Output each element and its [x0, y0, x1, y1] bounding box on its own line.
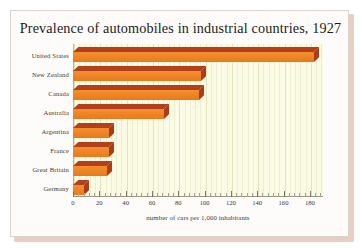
- x-tick-minor: [120, 193, 121, 197]
- x-tick-minor: [262, 193, 263, 197]
- gridline: [211, 44, 212, 196]
- x-tick-minor: [210, 193, 211, 197]
- gridline: [290, 44, 291, 196]
- x-tick-label-180: 180: [305, 199, 315, 206]
- x-tick-major: [231, 191, 232, 197]
- x-tick-minor: [189, 193, 190, 197]
- gridline: [148, 44, 149, 196]
- gridline: [311, 44, 312, 196]
- gridline: [206, 44, 207, 196]
- x-axis-title: number of cars per 1,000 inhabitants: [73, 214, 323, 221]
- x-tick-major: [284, 191, 285, 197]
- category-label-canada: Canada: [11, 89, 69, 96]
- gridline: [321, 44, 322, 196]
- chart-card: Prevalence of automobiles in industrial …: [10, 10, 349, 237]
- gridline: [295, 44, 296, 196]
- x-tick-minor: [115, 193, 116, 197]
- x-tick-minor: [320, 193, 321, 197]
- x-tick-minor: [278, 193, 279, 197]
- x-tick-minor: [294, 193, 295, 197]
- x-tick-major: [178, 191, 179, 197]
- gridline: [258, 44, 259, 196]
- gridline: [237, 44, 238, 196]
- gridline: [263, 44, 264, 196]
- category-label-united-states: United States: [11, 51, 69, 58]
- x-tick-minor: [252, 193, 253, 197]
- x-tick-minor: [247, 193, 248, 197]
- x-tick-minor: [241, 193, 242, 197]
- x-tick-label-20: 20: [96, 199, 103, 206]
- x-tick-minor: [136, 193, 137, 197]
- gridline: [242, 44, 243, 196]
- gridline: [132, 44, 133, 196]
- gridline: [79, 44, 80, 196]
- x-tick-minor: [105, 193, 106, 197]
- x-tick-major: [73, 191, 74, 197]
- gridline: [248, 44, 249, 196]
- x-tick-label-80: 80: [175, 199, 182, 206]
- x-tick-label-160: 160: [279, 199, 289, 206]
- x-tick-minor: [194, 193, 195, 197]
- category-axis-labels: United StatesNew ZealandCanadaAustraliaA…: [11, 44, 69, 196]
- x-tick-label-120: 120: [226, 199, 236, 206]
- x-tick-minor: [141, 193, 142, 197]
- gridline: [163, 44, 164, 196]
- gridline: [274, 44, 275, 196]
- gridline: [221, 44, 222, 196]
- x-axis-tick-labels: 020406080100120140160180: [73, 199, 323, 211]
- x-axis-ticks: [73, 191, 323, 197]
- x-tick-minor: [84, 193, 85, 197]
- gridline: [316, 44, 317, 196]
- gridline: [185, 44, 186, 196]
- x-tick-minor: [299, 193, 300, 197]
- gridline: [232, 44, 233, 196]
- category-label-new-zealand: New Zealand: [11, 70, 69, 77]
- x-tick-minor: [168, 193, 169, 197]
- x-tick-minor: [289, 193, 290, 197]
- x-tick-major: [99, 191, 100, 197]
- x-tick-minor: [305, 193, 306, 197]
- x-tick-minor: [94, 193, 95, 197]
- x-tick-label-40: 40: [122, 199, 129, 206]
- x-tick-label-100: 100: [200, 199, 210, 206]
- gridline: [85, 44, 86, 196]
- x-tick-minor: [268, 193, 269, 197]
- gridline: [100, 44, 101, 196]
- x-tick-minor: [273, 193, 274, 197]
- x-tick-minor: [315, 193, 316, 197]
- gridline: [190, 44, 191, 196]
- gridline: [116, 44, 117, 196]
- x-tick-minor: [236, 193, 237, 197]
- x-tick-major: [257, 191, 258, 197]
- x-tick-minor: [89, 193, 90, 197]
- gridline: [127, 44, 128, 196]
- x-tick-minor: [184, 193, 185, 197]
- x-tick-minor: [199, 193, 200, 197]
- x-tick-major: [152, 191, 153, 197]
- gridline: [121, 44, 122, 196]
- x-tick-minor: [110, 193, 111, 197]
- gridline: [300, 44, 301, 196]
- x-tick-minor: [215, 193, 216, 197]
- x-tick-label-60: 60: [149, 199, 156, 206]
- gridline: [90, 44, 91, 196]
- x-tick-label-0: 0: [71, 199, 74, 206]
- category-label-great-britain: Great Britain: [11, 165, 69, 172]
- gridline: [153, 44, 154, 196]
- gridline: [200, 44, 201, 196]
- gridline: [179, 44, 180, 196]
- gridline: [253, 44, 254, 196]
- x-tick-major: [310, 191, 311, 197]
- category-label-france: France: [11, 146, 69, 153]
- gridline: [285, 44, 286, 196]
- x-tick-minor: [162, 193, 163, 197]
- category-label-argentina: Argentina: [11, 127, 69, 134]
- gridline: [142, 44, 143, 196]
- x-tick-minor: [78, 193, 79, 197]
- gridline: [137, 44, 138, 196]
- x-tick-label-140: 140: [252, 199, 262, 206]
- gridline: [279, 44, 280, 196]
- gridline: [106, 44, 107, 196]
- x-tick-major: [205, 191, 206, 197]
- gridline: [111, 44, 112, 196]
